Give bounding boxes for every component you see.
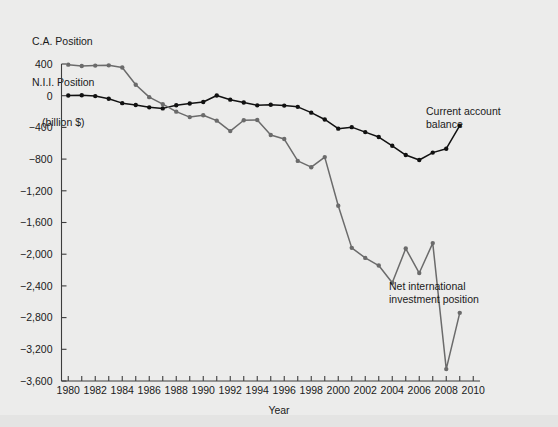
data-point (188, 101, 192, 105)
data-point (228, 129, 232, 133)
data-point (228, 97, 232, 101)
y-tick-label: −1,200 (20, 185, 53, 197)
data-point (417, 158, 421, 162)
plot-area: 4000−400−800−1,200−1,600−2,000−2,400−2,8… (0, 0, 558, 427)
data-point (404, 246, 408, 250)
data-point (80, 93, 84, 97)
data-point (174, 109, 178, 113)
data-point (444, 367, 448, 371)
data-point (350, 125, 354, 129)
data-point (404, 153, 408, 157)
y-axis: 4000−400−800−1,200−1,600−2,000−2,400−2,8… (20, 58, 66, 387)
data-point (174, 103, 178, 107)
data-point (363, 130, 367, 134)
data-point (336, 126, 340, 130)
data-point (431, 150, 435, 154)
data-point (161, 106, 165, 110)
data-point (417, 271, 421, 275)
chart-root: C.A. Position N.I.I. Position (billion $… (0, 0, 558, 427)
data-point (107, 97, 111, 101)
data-point (309, 165, 313, 169)
data-point (147, 105, 151, 109)
data-point (323, 117, 327, 121)
x-tick-label: 2002 (354, 384, 378, 396)
data-point (188, 115, 192, 119)
x-tick-label: 1988 (165, 384, 189, 396)
data-point (201, 113, 205, 117)
series-line (68, 65, 460, 369)
chart-figure: C.A. Position N.I.I. Position (billion $… (0, 0, 558, 427)
x-tick-label: 1990 (192, 384, 216, 396)
data-point (336, 204, 340, 208)
data-point (323, 155, 327, 159)
y-tick-label: −2,400 (20, 280, 53, 292)
data-point (255, 103, 259, 107)
data-point (269, 103, 273, 107)
data-point (242, 118, 246, 122)
data-point (282, 137, 286, 141)
y-tick-label: 400 (35, 58, 53, 70)
data-point (269, 133, 273, 137)
data-point (66, 93, 70, 97)
data-point (296, 159, 300, 163)
data-point (66, 62, 70, 66)
x-tick-label: 1982 (84, 384, 108, 396)
x-tick-label: 1980 (57, 384, 81, 396)
y-tick-label: −400 (29, 121, 53, 133)
x-tick-label: 2000 (327, 384, 351, 396)
y-tick-label: −2,800 (20, 311, 53, 323)
data-point (147, 95, 151, 99)
x-tick-label: 2006 (408, 384, 432, 396)
data-point (93, 63, 97, 67)
data-point (80, 64, 84, 68)
data-point (431, 241, 435, 245)
data-point (296, 105, 300, 109)
data-point (107, 63, 111, 67)
x-axis: 1980198219841986198819901992199419961998… (57, 376, 486, 396)
data-point (282, 103, 286, 107)
x-tick-label: 2008 (435, 384, 459, 396)
data-point (201, 100, 205, 104)
data-point (134, 103, 138, 107)
data-point (363, 256, 367, 260)
data-point (242, 100, 246, 104)
data-point (444, 147, 448, 151)
data-point (215, 118, 219, 122)
data-point (309, 110, 313, 114)
data-point (93, 94, 97, 98)
y-tick-label: −3,600 (20, 375, 53, 387)
data-point (134, 82, 138, 86)
data-point (377, 263, 381, 267)
data-point (161, 102, 165, 106)
data-point (390, 144, 394, 148)
series-niip (66, 62, 462, 371)
data-point (120, 65, 124, 69)
x-tick-label: 1994 (246, 384, 270, 396)
y-tick-label: 0 (47, 90, 53, 102)
data-series-group (66, 62, 462, 371)
annotation-current-account: Current account balance (426, 105, 501, 131)
x-tick-label: 1992 (219, 384, 243, 396)
x-tick-label: 1984 (111, 384, 135, 396)
y-tick-label: −2,000 (20, 248, 53, 260)
data-point (120, 101, 124, 105)
x-tick-label: 1996 (273, 384, 297, 396)
y-tick-label: −1,600 (20, 216, 53, 228)
data-point (215, 93, 219, 97)
data-point (255, 118, 259, 122)
annotation-niip: Net international investment position (389, 280, 479, 306)
y-tick-label: −800 (29, 153, 53, 165)
data-point (377, 135, 381, 139)
data-point (350, 246, 354, 250)
data-point (458, 311, 462, 315)
y-tick-label: −3,200 (20, 343, 53, 355)
bottom-strip (0, 415, 558, 427)
x-tick-label: 2010 (462, 384, 486, 396)
x-tick-label: 2004 (381, 384, 405, 396)
x-tick-label: 1986 (138, 384, 162, 396)
x-tick-label: 1998 (300, 384, 324, 396)
